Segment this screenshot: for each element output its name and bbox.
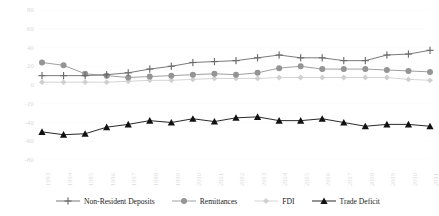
data-point-marker <box>263 198 269 204</box>
y-tick-label: -20 <box>14 100 34 107</box>
data-point-marker <box>340 57 347 64</box>
data-point-marker <box>211 71 217 77</box>
y-tick-label: -80 <box>14 156 34 163</box>
triangle-marker-icon <box>311 196 337 206</box>
data-point-marker <box>319 54 326 61</box>
data-point-marker <box>276 75 282 81</box>
data-point-marker <box>406 76 412 82</box>
data-point-marker <box>168 63 175 70</box>
x-tick-label: 2004 <box>281 173 288 186</box>
data-point-marker <box>61 79 67 85</box>
data-point-marker <box>384 67 390 73</box>
data-point-marker <box>427 69 433 75</box>
x-tick-label: 2003 <box>260 173 267 186</box>
data-point-marker <box>341 66 347 72</box>
x-tick-label: 2007 <box>346 173 353 186</box>
data-point-marker <box>38 72 45 79</box>
x-tick-label: 1993 <box>44 173 51 186</box>
data-point-marker <box>319 115 326 122</box>
data-point-marker <box>189 115 196 122</box>
data-point-marker <box>298 75 304 81</box>
data-point-marker <box>232 57 239 64</box>
data-point-marker <box>38 128 45 135</box>
x-tick-label: 1995 <box>87 173 94 186</box>
data-point-marker <box>362 75 368 81</box>
x-tick-label: 2006 <box>324 173 331 186</box>
data-point-marker <box>405 50 412 57</box>
y-tick-label: 40 <box>14 44 34 51</box>
data-point-marker <box>211 58 218 65</box>
data-point-marker <box>189 59 196 66</box>
data-point-marker <box>146 117 153 124</box>
data-point-marker <box>319 66 325 72</box>
data-point-marker <box>147 74 153 80</box>
data-point-marker <box>61 62 67 68</box>
data-point-marker <box>298 63 304 69</box>
legend-item-remittances[interactable]: Remittances <box>171 196 238 206</box>
x-tick-label: 1998 <box>152 173 159 186</box>
y-tick-label: 0 <box>14 81 34 88</box>
data-point-marker <box>168 73 174 79</box>
x-tick-label: 1994 <box>66 173 73 186</box>
x-tick-label: 1997 <box>130 173 137 186</box>
circle-marker-icon <box>171 196 197 206</box>
y-tick-label: 60 <box>14 25 34 32</box>
x-tick-label: 2010 <box>411 173 418 186</box>
data-point-marker <box>60 72 67 79</box>
data-point-marker <box>64 197 71 204</box>
data-point-marker <box>82 79 88 85</box>
plus-marker-icon <box>55 196 81 206</box>
legend-item-non-resident-deposits[interactable]: Non-Resident Deposits <box>55 196 155 206</box>
data-point-marker <box>362 66 368 72</box>
legend-item-label: Non-Resident Deposits <box>84 197 155 206</box>
data-point-marker <box>341 75 347 81</box>
data-point-marker <box>255 76 261 82</box>
data-point-marker <box>297 54 304 61</box>
y-tick-label: -60 <box>14 137 34 144</box>
data-point-marker <box>39 60 45 66</box>
x-tick-label: 1999 <box>174 173 181 186</box>
data-point-marker <box>384 75 390 81</box>
data-point-marker <box>427 77 433 83</box>
x-tick-label: 2001 <box>217 173 224 186</box>
legend-item-label: Remittances <box>200 197 238 206</box>
x-tick-label: 1996 <box>109 173 116 186</box>
chart-legend: Non-Resident DepositsRemittancesFDITrade… <box>0 192 435 210</box>
data-point-marker <box>254 54 261 61</box>
data-point-marker <box>181 198 187 204</box>
diamond-marker-icon <box>253 196 279 206</box>
data-point-marker <box>39 79 45 85</box>
data-point-marker <box>383 51 390 58</box>
y-tick-label: 20 <box>14 62 34 69</box>
legend-item-label: Trade Deficit <box>340 197 380 206</box>
x-tick-label: 2008 <box>368 173 375 186</box>
data-point-marker <box>190 72 196 78</box>
data-point-marker <box>125 69 132 76</box>
x-tick-label: 2005 <box>303 173 310 186</box>
y-tick-label: 80 <box>14 6 34 13</box>
series-trade-deficit <box>38 113 433 137</box>
data-point-marker <box>319 75 325 81</box>
legend-item-label: FDI <box>282 197 294 206</box>
data-point-marker <box>255 70 261 76</box>
data-point-marker <box>405 68 411 74</box>
data-point-marker <box>233 72 239 78</box>
x-tick-label: 2011 <box>432 173 439 186</box>
legend-item-trade-deficit[interactable]: Trade Deficit <box>311 196 380 206</box>
x-tick-label: 2002 <box>238 173 245 186</box>
data-point-marker <box>362 57 369 64</box>
data-point-marker <box>276 51 283 58</box>
legend-item-fdi[interactable]: FDI <box>253 196 294 206</box>
x-tick-label: 2000 <box>195 173 202 186</box>
x-tick-label: 2009 <box>389 173 396 186</box>
y-tick-label: -40 <box>14 119 34 126</box>
data-point-marker <box>104 79 110 85</box>
data-point-marker <box>276 65 282 71</box>
